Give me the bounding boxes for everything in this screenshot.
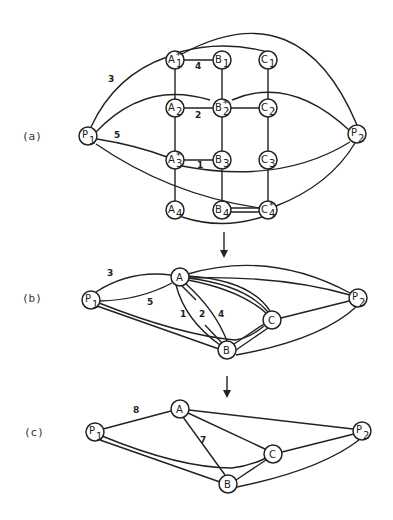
svg-text:B: B [223,345,230,356]
svg-text:1: 1 [92,299,98,310]
svg-text:A: A [168,204,175,215]
edge-label-2: 2 [195,110,201,120]
svg-text:A: A [168,154,175,165]
down-arrow-icon [223,376,231,398]
node-a2: A 2 [166,99,184,117]
svg-text:A: A [176,272,183,283]
svg-text:P: P [89,425,95,436]
svg-text:P: P [85,293,91,304]
node-c2: C 2 [259,99,277,117]
graph-reduction-diagram: (a) [0,0,393,520]
svg-text:4: 4 [223,208,229,219]
svg-text:2: 2 [223,106,229,117]
svg-text:B: B [215,102,222,113]
svg-text:C: C [268,315,275,326]
node-p1: P 1 [86,423,104,442]
svg-text:C: C [269,449,276,460]
node-p2: P 2 [349,289,367,308]
node-a: A [171,400,189,418]
edge-label-2: 2 [199,309,205,319]
edge-label-5: 5 [147,297,153,307]
node-b: B [219,475,237,493]
edge-label-7: 7 [200,435,206,445]
edge-label-1: 1 [197,160,203,170]
svg-text:3: 3 [269,158,275,169]
node-p2: P 2 [353,422,371,441]
svg-text:C: C [261,204,268,215]
svg-text:P: P [351,127,357,138]
node-c1: C 1 [259,51,277,69]
panel-b: (b) [22,265,367,359]
node-p1: P 1 [82,291,100,310]
edge-label-8: 8 [133,405,139,415]
node-a3: A * 3 [166,150,184,169]
svg-text:2: 2 [358,133,364,144]
svg-text:A: A [168,54,175,65]
edge-label-3: 3 [108,74,114,84]
svg-text:2: 2 [363,430,369,441]
svg-text:P: P [82,129,88,140]
edge-label-5: 5 [114,130,120,140]
svg-text:C: C [261,154,268,165]
panel-a-label: (a) [22,130,42,143]
edge-label-1: 1 [180,309,186,319]
node-p1: P 1 [79,127,97,146]
svg-text:A: A [168,102,175,113]
svg-text:B: B [215,54,222,65]
svg-text:P: P [352,291,358,302]
edge-label-3: 3 [107,268,113,278]
panel-b-label: (b) [22,292,42,305]
panel-a: (a) [22,33,366,223]
edge-label-4: 4 [195,61,201,71]
svg-text:C: C [261,54,268,65]
edge-label-4: 4 [218,309,224,319]
panel-c: (c) P 1 P 2 [24,400,371,493]
node-b3: B 3 [213,151,231,169]
node-c4: C * 4 [259,200,277,219]
node-p2: P 2 [348,125,366,144]
svg-text:2: 2 [359,297,365,308]
svg-text:C: C [261,102,268,113]
svg-text:A: A [176,404,183,415]
node-a4: A 4 [166,201,184,219]
svg-text:1: 1 [89,135,95,146]
svg-text:1: 1 [223,58,229,69]
svg-text:1: 1 [269,58,275,69]
svg-text:3: 3 [223,158,229,169]
svg-text:B: B [215,204,222,215]
node-c: C [264,445,282,463]
node-b4: B 4 [213,201,231,219]
panel-c-label: (c) [24,426,44,439]
node-c: C [263,311,281,329]
svg-text:2: 2 [269,106,275,117]
node-b: B [218,341,236,359]
svg-text:4: 4 [269,208,275,219]
node-b1: B 1 [213,51,231,69]
svg-text:1: 1 [96,431,102,442]
svg-text:P: P [356,424,362,435]
svg-text:B: B [224,479,231,490]
node-b2: B * 2 [213,98,231,117]
svg-text:2: 2 [176,106,182,117]
down-arrow-icon [220,232,228,258]
node-a1: A * 1 [166,50,184,69]
svg-text:B: B [215,154,222,165]
svg-text:1: 1 [176,58,182,69]
node-c3: C 3 [259,151,277,169]
svg-text:4: 4 [176,208,182,219]
svg-text:3: 3 [176,158,182,169]
node-a: A [171,268,189,286]
